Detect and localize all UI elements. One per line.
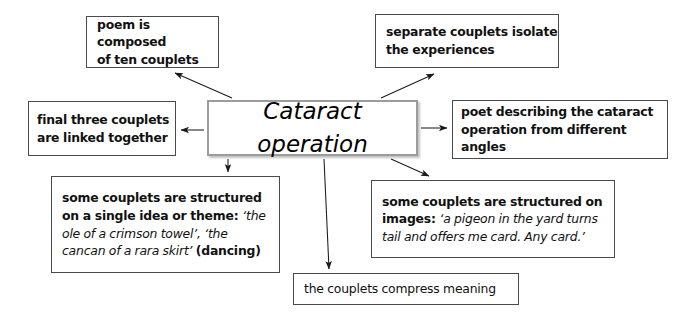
node-structured-single-idea: some couplets are structuredon a single … [51,176,280,273]
arrow-center-to-compress-meaning [324,159,329,269]
node-separate-couplets: separate couplets isolatethe experiences [375,14,559,68]
concept-map-diagram: poem is composedof ten couplets separate… [0,0,699,325]
arrow-center-to-structured-images [391,159,429,176]
node-poet-describing-label: poet describing the cataractoperation fr… [461,103,667,156]
node-poem-composed-label: poem is composedof ten couplets [97,16,218,69]
center-node-label: Cataract operation [215,95,410,160]
arrow-center-to-poem-composed [175,73,232,98]
node-final-three-couplets: final three coupletsare linked together [28,101,176,156]
center-node: Cataract operation [207,100,418,156]
node-structured-single-idea-label: some couplets are structuredon a single … [62,189,279,259]
node-poem-composed: poem is composedof ten couplets [86,16,219,68]
node-separate-couplets-label: separate couplets isolatethe experiences [386,23,558,58]
node-final-three-couplets-label: final three coupletsare linked together [37,111,175,146]
node-compress-meaning: the couplets compress meaning [293,273,519,305]
node-poet-describing: poet describing the cataractoperation fr… [452,100,668,159]
node-structured-images-label: some couplets are structured onimages: ‘… [382,193,614,246]
node-structured-images: some couplets are structured onimages: ‘… [371,180,615,258]
node-compress-meaning-label: the couplets compress meaning [304,280,518,298]
